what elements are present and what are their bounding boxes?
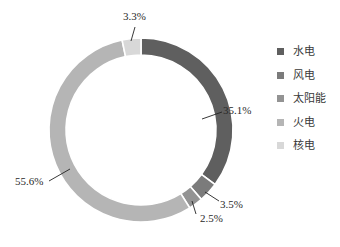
donut-segment-hydro [141,38,233,185]
value-label-thermal: 55.6% [15,175,43,187]
legend-item-wind: 风电 [277,64,326,88]
legend-label: 风电 [293,70,315,81]
chart-legend: 水电 风电 太阳能 火电 核电 [277,40,326,158]
legend-swatch-thermal [277,119,284,126]
leader-line-wind [205,192,219,201]
donut-chart: 35.1%3.5%2.5%55.6%3.3% 水电 风电 太阳能 火电 核电 [0,0,340,247]
value-label-nuclear: 3.3% [123,10,146,22]
legend-label: 火电 [293,117,315,128]
legend-label: 太阳能 [293,93,326,104]
legend-item-nuclear: 核电 [277,134,326,158]
legend-item-hydro: 水电 [277,40,326,64]
legend-swatch-solar [277,95,284,102]
value-label-hydro: 35.1% [223,104,251,116]
legend-swatch-hydro [277,48,284,55]
legend-label: 水电 [293,46,315,57]
value-label-solar: 2.5% [200,212,223,224]
donut-segment-thermal [49,40,190,222]
legend-item-thermal: 火电 [277,111,326,135]
legend-label: 核电 [293,140,315,151]
legend-swatch-nuclear [277,142,284,149]
value-label-wind: 3.5% [220,198,243,210]
donut-segment-nuclear [122,38,141,57]
legend-swatch-wind [277,72,284,79]
legend-item-solar: 太阳能 [277,87,326,111]
donut-segments [49,38,233,222]
